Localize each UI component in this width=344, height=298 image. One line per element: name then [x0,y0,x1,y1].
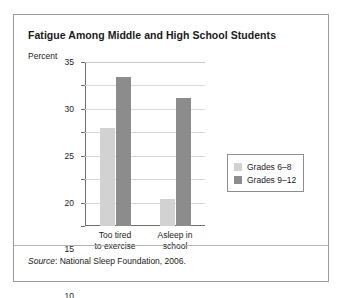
bar [100,128,115,226]
y-axis-tick-label: 35 [65,57,74,67]
chart-legend: Grades 6–8 Grades 9–12 [227,154,304,192]
y-axis-tick: 10 [81,179,85,180]
y-axis-tick: 15 [81,156,85,157]
source-note: Source: National Sleep Foundation, 2006. [28,256,186,266]
y-axis-tick: 20 [81,132,85,133]
y-axis-tick: 25 [81,109,85,110]
gridline [85,62,205,63]
y-axis-tick: 5 [81,203,85,204]
y-axis-tick-label: 10 [65,291,74,298]
legend-swatch-icon [234,176,242,184]
figure-card: Fatigue Among Middle and High School Stu… [13,14,329,282]
y-axis-tick-label: 25 [65,151,74,161]
x-axis-label-line: Too tired [85,230,145,241]
bar [160,199,175,226]
x-axis-label-line: Asleep in [145,230,205,241]
bar [116,77,131,226]
legend-item: Grades 6–8 [234,160,296,173]
bar [176,98,191,226]
x-axis-group-label: Asleep inschool [145,230,205,252]
x-axis-group-label: Too tiredto exercise [85,230,145,252]
legend-item: Grades 9–12 [234,173,296,186]
page-title: Fatigue Among Middle and High School Stu… [28,29,276,41]
y-axis-tick: 30 [81,85,85,86]
x-axis-label-line: school [145,241,205,252]
y-axis-tick-label: 20 [65,198,74,208]
source-value: : National Sleep Foundation, 2006. [55,256,186,266]
y-axis-tick: 35 [81,62,85,63]
y-axis-unit-label: Percent [28,51,57,61]
source-label: Source [28,256,55,266]
y-axis-tick: 0 [81,226,85,227]
legend-item-label: Grades 6–8 [247,162,291,172]
legend-item-label: Grades 9–12 [247,175,296,185]
plot-area: 05101520253035 Too tiredto exerciseAslee… [85,62,205,226]
x-axis-label-line: to exercise [85,241,145,252]
gridline [85,85,205,86]
legend-swatch-icon [234,163,242,171]
source-divider [14,245,328,246]
y-axis-tick-label: 30 [65,104,74,114]
